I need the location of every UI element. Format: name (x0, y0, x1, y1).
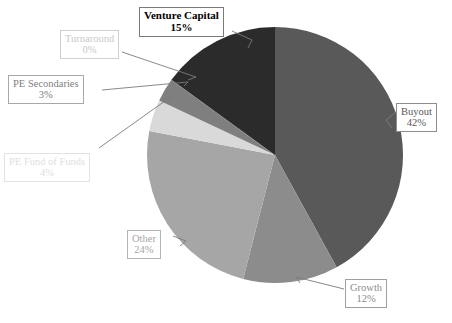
slice-label-turnaround-percent: 0% (65, 44, 114, 55)
slice-label-growth-percent: 12% (350, 293, 382, 304)
leader-line-growth (296, 277, 344, 289)
slice-label-pe-fund-of-funds-percent: 4% (9, 167, 85, 178)
slice-label-turnaround[interactable]: Turnaround 0% (60, 30, 119, 59)
pie-slices (147, 27, 403, 283)
slice-label-other-percent: 24% (132, 244, 156, 255)
slice-label-pe-secondaries-percent: 3% (13, 89, 79, 100)
slice-label-pe-fund-of-funds-category: PE Fund of Funds (9, 156, 85, 167)
slice-label-growth-category: Growth (350, 282, 382, 293)
pie-chart-figure: Venture Capital 15% Turnaround 0% PE Sec… (0, 0, 452, 323)
slice-label-pe-secondaries[interactable]: PE Secondaries 3% (8, 75, 84, 104)
slice-label-venture-capital[interactable]: Venture Capital 15% (139, 7, 224, 37)
slice-label-other-category: Other (132, 233, 156, 244)
slice-label-other[interactable]: Other 24% (127, 230, 161, 259)
slice-label-venture-capital-category: Venture Capital (144, 10, 219, 22)
slice-label-venture-capital-percent: 15% (144, 22, 219, 34)
slice-label-pe-secondaries-category: PE Secondaries (13, 78, 79, 89)
slice-label-pe-fund-of-funds[interactable]: PE Fund of Funds 4% (4, 153, 90, 182)
slice-label-buyout-percent: 42% (401, 117, 432, 128)
slice-label-turnaround-category: Turnaround (65, 33, 114, 44)
slice-label-buyout-category: Buyout (401, 106, 432, 117)
slice-label-buyout[interactable]: Buyout 42% (396, 103, 437, 132)
slice-label-growth[interactable]: Growth 12% (345, 279, 387, 308)
